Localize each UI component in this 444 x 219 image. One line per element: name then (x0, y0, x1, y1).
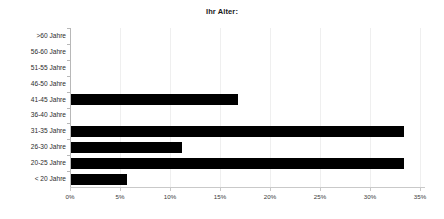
y-axis-tick-label: 36-40 Jahre (0, 111, 66, 119)
y-axis-tick-label: 46-50 Jahre (0, 80, 66, 88)
x-axis-tick-label: 25% (300, 193, 340, 201)
plot-area (70, 28, 425, 187)
x-axis-tick-label: 20% (250, 193, 290, 201)
x-axis-tick (320, 188, 321, 191)
y-axis-tick-label: 26-30 Jahre (0, 143, 66, 151)
bar (71, 94, 238, 105)
x-axis-tick (420, 188, 421, 191)
y-axis-tick-label: 20-25 Jahre (0, 159, 66, 167)
x-axis-tick (370, 188, 371, 191)
x-axis-tick-label: 5% (100, 193, 140, 201)
x-axis-tick (120, 188, 121, 191)
x-axis-tick-label: 0% (50, 193, 90, 201)
gridline (420, 28, 421, 187)
y-axis-tick-label: >60 Jahre (0, 32, 66, 40)
x-axis-tick (220, 188, 221, 191)
x-axis-tick-label: 35% (400, 193, 440, 201)
y-axis-tick-label: 41-45 Jahre (0, 96, 66, 104)
x-axis-tick (270, 188, 271, 191)
chart-title: Ihr Alter: (0, 7, 444, 17)
x-axis-tick-label: 30% (350, 193, 390, 201)
y-axis-tick-label: 31-35 Jahre (0, 127, 66, 135)
bar (71, 142, 182, 153)
x-axis-line (70, 187, 425, 188)
y-axis-tick-label: 51-55 Jahre (0, 64, 66, 72)
x-axis-tick (170, 188, 171, 191)
x-axis-tick (70, 188, 71, 191)
x-axis-tick-label: 15% (200, 193, 240, 201)
y-axis-tick-label: < 20 Jahre (0, 175, 66, 183)
y-axis-tick-label: 56-60 Jahre (0, 48, 66, 56)
bar (71, 174, 127, 185)
bar (71, 126, 404, 137)
bar (71, 158, 404, 169)
x-axis-tick-label: 10% (150, 193, 190, 201)
bar-chart: Ihr Alter: < 20 Jahre20-25 Jahre26-30 Ja… (0, 0, 444, 219)
